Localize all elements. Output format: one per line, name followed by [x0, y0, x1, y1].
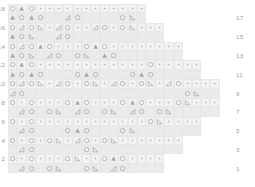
chart-cell[interactable] — [45, 32, 54, 41]
chart-cell[interactable] — [27, 13, 36, 22]
chart-cell[interactable] — [91, 79, 100, 88]
chart-cell[interactable] — [27, 60, 36, 69]
chart-cell[interactable] — [63, 13, 72, 22]
chart-cell[interactable] — [118, 154, 127, 163]
chart-cell[interactable] — [183, 60, 192, 69]
chart-cell[interactable] — [8, 107, 17, 116]
chart-cell[interactable] — [128, 107, 137, 116]
chart-cell[interactable] — [63, 136, 72, 145]
chart-cell[interactable] — [109, 89, 118, 98]
chart-cell[interactable] — [54, 4, 63, 13]
chart-cell[interactable] — [63, 164, 72, 173]
chart-cell[interactable] — [91, 126, 100, 135]
chart-cell[interactable] — [36, 23, 45, 32]
chart-cell[interactable] — [82, 79, 91, 88]
chart-cell[interactable] — [109, 42, 118, 51]
chart-cell[interactable] — [183, 107, 192, 116]
chart-cell[interactable] — [91, 42, 100, 51]
chart-cell[interactable] — [100, 51, 109, 60]
chart-cell[interactable] — [109, 126, 118, 135]
chart-cell[interactable] — [164, 107, 173, 116]
chart-cell[interactable] — [17, 107, 26, 116]
chart-cell[interactable] — [137, 126, 146, 135]
chart-cell[interactable] — [109, 23, 118, 32]
chart-cell[interactable] — [137, 23, 146, 32]
chart-cell[interactable] — [155, 60, 164, 69]
chart-cell[interactable] — [27, 4, 36, 13]
chart-cell[interactable] — [109, 145, 118, 154]
chart-cell[interactable] — [36, 107, 45, 116]
chart-cell[interactable] — [63, 98, 72, 107]
chart-cell[interactable] — [100, 23, 109, 32]
chart-cell[interactable] — [164, 70, 173, 79]
chart-cell[interactable] — [45, 136, 54, 145]
chart-cell[interactable] — [82, 126, 91, 135]
chart-cell[interactable] — [201, 107, 210, 116]
chart-cell[interactable] — [146, 42, 155, 51]
chart-cell[interactable] — [45, 117, 54, 126]
chart-cell[interactable] — [73, 107, 82, 116]
chart-cell[interactable] — [82, 89, 91, 98]
chart-cell[interactable] — [8, 70, 17, 79]
chart-cell[interactable] — [137, 98, 146, 107]
chart-cell[interactable] — [137, 107, 146, 116]
chart-cell[interactable] — [54, 145, 63, 154]
chart-cell[interactable] — [54, 154, 63, 163]
chart-cell[interactable] — [8, 154, 17, 163]
chart-cell[interactable] — [137, 164, 146, 173]
chart-cell[interactable] — [17, 136, 26, 145]
chart-cell[interactable] — [17, 23, 26, 32]
chart-cell[interactable] — [210, 107, 219, 116]
chart-cell[interactable] — [8, 145, 17, 154]
chart-cell[interactable] — [91, 98, 100, 107]
chart-cell[interactable] — [192, 107, 201, 116]
chart-cell[interactable] — [27, 32, 36, 41]
chart-cell[interactable] — [174, 126, 183, 135]
chart-cell[interactable] — [17, 117, 26, 126]
chart-cell[interactable] — [36, 126, 45, 135]
chart-cell[interactable] — [201, 98, 210, 107]
chart-cell[interactable] — [192, 79, 201, 88]
chart-cell[interactable] — [100, 98, 109, 107]
chart-cell[interactable] — [118, 107, 127, 116]
chart-cell[interactable] — [118, 98, 127, 107]
chart-cell[interactable] — [82, 60, 91, 69]
chart-cell[interactable] — [54, 126, 63, 135]
chart-cell[interactable] — [118, 126, 127, 135]
chart-cell[interactable] — [36, 51, 45, 60]
chart-cell[interactable] — [109, 117, 118, 126]
chart-cell[interactable] — [155, 136, 164, 145]
chart-cell[interactable] — [100, 70, 109, 79]
chart-cell[interactable] — [91, 136, 100, 145]
chart-cell[interactable] — [45, 70, 54, 79]
chart-cell[interactable] — [183, 79, 192, 88]
chart-cell[interactable] — [164, 42, 173, 51]
chart-cell[interactable] — [54, 136, 63, 145]
chart-cell[interactable] — [128, 79, 137, 88]
chart-cell[interactable] — [128, 98, 137, 107]
chart-cell[interactable] — [109, 70, 118, 79]
chart-cell[interactable] — [100, 89, 109, 98]
chart-cell[interactable] — [91, 107, 100, 116]
chart-cell[interactable] — [45, 4, 54, 13]
chart-cell[interactable] — [45, 13, 54, 22]
chart-cell[interactable] — [63, 4, 72, 13]
chart-cell[interactable] — [36, 60, 45, 69]
chart-cell[interactable] — [109, 136, 118, 145]
chart-cell[interactable] — [54, 42, 63, 51]
chart-cell[interactable] — [54, 98, 63, 107]
chart-cell[interactable] — [146, 126, 155, 135]
chart-cell[interactable] — [118, 164, 127, 173]
chart-cell[interactable] — [109, 107, 118, 116]
chart-cell[interactable] — [73, 89, 82, 98]
chart-cell[interactable] — [73, 164, 82, 173]
chart-cell[interactable] — [192, 70, 201, 79]
chart-cell[interactable] — [174, 70, 183, 79]
chart-cell[interactable] — [118, 79, 127, 88]
chart-cell[interactable] — [73, 13, 82, 22]
chart-cell[interactable] — [73, 42, 82, 51]
chart-cell[interactable] — [137, 70, 146, 79]
chart-cell[interactable] — [63, 107, 72, 116]
chart-cell[interactable] — [118, 117, 127, 126]
chart-cell[interactable] — [36, 79, 45, 88]
